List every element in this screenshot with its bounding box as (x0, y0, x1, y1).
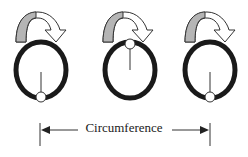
marker-dot (125, 39, 135, 49)
marker-dot (36, 92, 46, 102)
circumference-label: Circumference (0, 120, 248, 136)
wheel-3 (185, 12, 235, 102)
wheel-1 (16, 12, 66, 102)
marker-dot (205, 92, 215, 102)
wheel-2 (103, 12, 155, 98)
